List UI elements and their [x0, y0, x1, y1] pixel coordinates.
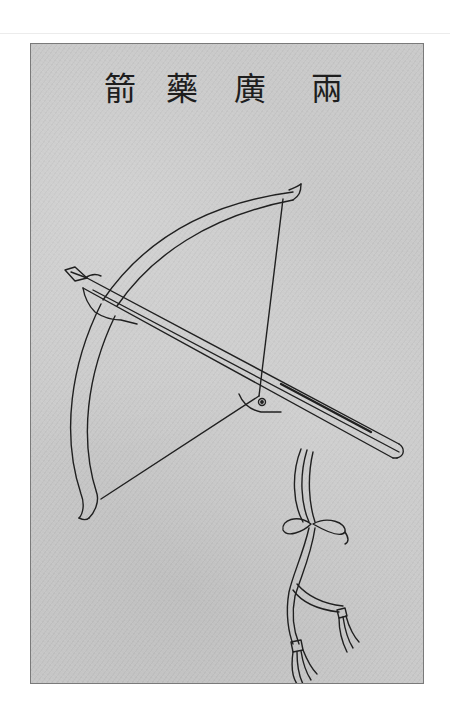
- page-top-rule: [0, 33, 450, 34]
- bow-upper-limb: [103, 184, 301, 306]
- tassel-cords: [283, 449, 359, 684]
- bow-lower-limb: [71, 304, 115, 520]
- crossbow-drawing: [31, 44, 424, 684]
- illustration-plate: 箭 藥 廣 兩: [30, 43, 424, 684]
- trigger-lock: [239, 394, 281, 412]
- crossbow-stock: [65, 267, 403, 458]
- bowstring: [101, 199, 283, 499]
